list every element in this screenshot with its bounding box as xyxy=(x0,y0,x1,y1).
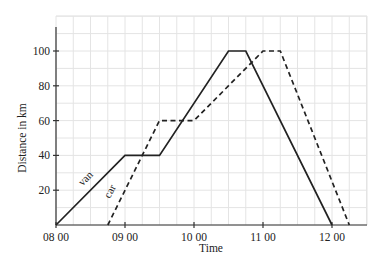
x-axis-label: Time xyxy=(199,242,223,254)
y-axis-label: Distance in km xyxy=(16,103,28,173)
x-tick-label: 08 00 xyxy=(43,231,69,243)
y-tick-label: 80 xyxy=(39,80,51,92)
van-series-label: van xyxy=(75,168,95,188)
x-tick-label: 09 00 xyxy=(112,231,138,243)
x-tick-label: 12 00 xyxy=(319,231,345,243)
y-tick-label: 40 xyxy=(39,149,51,161)
y-axis-ticks: 20406080100 xyxy=(33,45,59,196)
y-tick-label: 100 xyxy=(33,45,51,57)
x-tick-label: 11 00 xyxy=(250,231,276,243)
y-tick-label: 20 xyxy=(39,184,51,196)
distance-time-chart: 08 0009 0010 0011 0012 00 20406080100 Ti… xyxy=(0,0,378,270)
y-tick-label: 60 xyxy=(39,115,51,127)
car-series-label: car xyxy=(101,182,118,200)
